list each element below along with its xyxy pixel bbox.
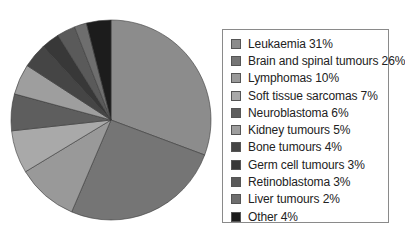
legend-label: Other 4% — [248, 210, 298, 224]
legend-swatch — [231, 91, 241, 101]
legend-label: Bone tumours 4% — [248, 140, 342, 154]
legend-item-other: Other 4% — [231, 208, 388, 225]
legend-swatch — [231, 73, 241, 83]
legend-label: Lymphomas 10% — [248, 71, 339, 85]
legend-label: Retinoblastoma 3% — [248, 175, 350, 189]
legend-item-neuroblastoma: Neuroblastoma 6% — [231, 104, 388, 121]
legend-label: Germ cell tumours 3% — [248, 158, 365, 172]
legend-item-germ-cell-tumours: Germ cell tumours 3% — [231, 156, 388, 173]
legend-label: Kidney tumours 5% — [248, 123, 350, 137]
legend-swatch — [231, 108, 241, 118]
legend-swatch — [231, 56, 241, 66]
legend-label: Neuroblastoma 6% — [248, 106, 348, 120]
legend-label: Liver tumours 2% — [248, 192, 340, 206]
legend-item-brain-spinal: Brain and spinal tumours 26% — [231, 52, 388, 69]
legend-swatch — [231, 142, 241, 152]
legend-swatch — [231, 125, 241, 135]
legend-label: Leukaemia 31% — [248, 37, 333, 51]
legend-item-bone-tumours: Bone tumours 4% — [231, 139, 388, 156]
chart-legend: Leukaemia 31% Brain and spinal tumours 2… — [222, 29, 389, 223]
legend-swatch — [231, 160, 241, 170]
legend-swatch — [231, 39, 241, 49]
legend-label: Brain and spinal tumours 26% — [248, 54, 405, 68]
legend-item-soft-tissue-sarcomas: Soft tissue sarcomas 7% — [231, 87, 388, 104]
pie-chart — [0, 0, 222, 239]
legend-item-retinoblastoma: Retinoblastoma 3% — [231, 173, 388, 190]
legend-item-liver-tumours: Liver tumours 2% — [231, 191, 388, 208]
legend-swatch — [231, 177, 241, 187]
legend-item-kidney-tumours: Kidney tumours 5% — [231, 121, 388, 138]
legend-label: Soft tissue sarcomas 7% — [248, 89, 378, 103]
legend-item-leukaemia: Leukaemia 31% — [231, 35, 388, 52]
legend-swatch — [231, 212, 241, 222]
legend-item-lymphomas: Lymphomas 10% — [231, 70, 388, 87]
legend-swatch — [231, 194, 241, 204]
